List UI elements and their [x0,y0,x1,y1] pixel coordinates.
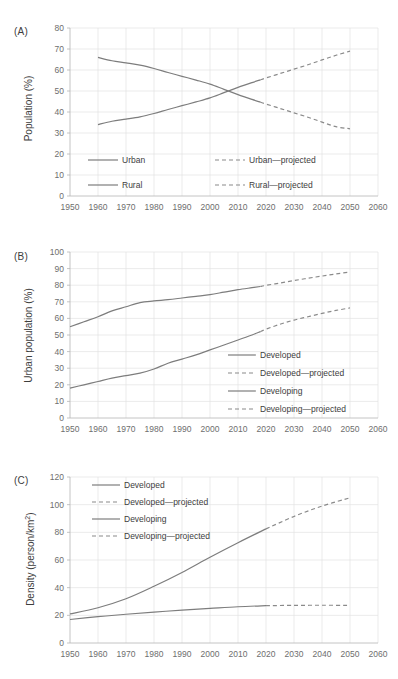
y-tick-label: 30 [55,363,65,373]
y-tick-label: 50 [55,330,65,340]
y-tick-label: 0 [59,191,64,201]
x-tick-label: 2060 [369,202,388,212]
series-line [260,102,350,129]
y-tick-label: 100 [50,500,64,510]
x-tick-label: 2050 [341,649,360,659]
x-tick-label: 1960 [89,202,108,212]
x-tick-label: 2030 [285,202,304,212]
x-tick-label: 2050 [341,424,360,434]
x-tick-label: 1970 [117,424,136,434]
x-tick-label: 2060 [369,649,388,659]
x-tick-label: 2040 [313,649,332,659]
x-tick-label: 2020 [257,649,276,659]
panel-a-svg: 0102030405060708019501960197019801990200… [0,0,398,232]
y-tick-label: 60 [55,313,65,323]
panel-c: (C) Density (person/km2) 020406080100120… [0,455,398,679]
y-tick-label: 70 [55,44,65,54]
x-tick-label: 2020 [257,424,276,434]
y-tick-label: 30 [55,128,65,138]
x-tick-label: 2030 [285,424,304,434]
panel-c-svg: 0204060801001201950196019701980199020002… [0,455,398,679]
x-tick-label: 1990 [173,424,192,434]
x-tick-label: 1950 [61,424,80,434]
y-tick-label: 10 [55,170,65,180]
legend-label: Developing—projected [124,531,210,541]
panel-a: (A) Population (%) 010203040506070801950… [0,0,398,232]
x-tick-label: 1970 [117,649,136,659]
x-tick-label: 1980 [145,202,164,212]
y-tick-label: 40 [55,583,65,593]
y-tick-label: 80 [55,280,65,290]
x-tick-label: 1970 [117,202,136,212]
legend-label: Developed [124,480,165,490]
x-tick-label: 1960 [89,649,108,659]
x-tick-label: 1960 [89,424,108,434]
x-tick-label: 1980 [145,649,164,659]
y-tick-label: 100 [50,247,64,257]
x-tick-label: 2020 [257,202,276,212]
series-line [98,80,260,125]
x-tick-label: 1950 [61,649,80,659]
y-tick-label: 60 [55,65,65,75]
x-tick-label: 2000 [201,649,220,659]
x-tick-label: 1990 [173,649,192,659]
panel-b-svg: 0102030405060708090100195019601970198019… [0,232,398,455]
y-tick-label: 40 [55,347,65,357]
legend-label: Urban—projected [249,155,316,165]
x-tick-label: 2000 [201,424,220,434]
x-tick-label: 2040 [313,424,332,434]
legend-label: Developing [124,514,167,524]
x-tick-label: 1990 [173,202,192,212]
x-tick-label: 1950 [61,202,80,212]
y-tick-label: 80 [55,527,65,537]
legend-label: Urban [122,155,145,165]
panel-b: (B) Urban population (%) 010203040506070… [0,232,398,455]
series-line [266,498,350,529]
y-tick-label: 20 [55,149,65,159]
legend-label: Developed [260,350,301,360]
legend-label: Rural—projected [249,180,313,190]
x-tick-label: 2030 [285,649,304,659]
y-tick-label: 0 [59,413,64,423]
x-tick-label: 2060 [369,424,388,434]
legend-label: Developed—projected [260,368,344,378]
y-tick-label: 120 [50,472,64,482]
series-line [70,529,266,614]
series-line [98,57,260,102]
series-line [70,287,260,327]
x-tick-label: 2010 [229,202,248,212]
x-tick-label: 2000 [201,202,220,212]
y-tick-label: 60 [55,555,65,565]
y-tick-label: 70 [55,297,65,307]
y-tick-label: 20 [55,610,65,620]
panel-c-plot: 0204060801001201950196019701980199020002… [0,455,398,679]
legend-label: Rural [122,180,142,190]
x-tick-label: 2010 [229,649,248,659]
y-tick-label: 20 [55,380,65,390]
series-line [260,51,350,80]
series-line [260,308,350,332]
y-tick-label: 40 [55,107,65,117]
series-line [260,272,350,287]
legend-label: Developing [260,386,303,396]
y-tick-label: 10 [55,396,65,406]
y-tick-label: 50 [55,86,65,96]
y-tick-label: 0 [59,638,64,648]
x-tick-label: 2040 [313,202,332,212]
y-tick-label: 90 [55,264,65,274]
legend-label: Developing—projected [260,404,346,414]
x-tick-label: 2050 [341,202,360,212]
legend-label: Developed—projected [124,497,208,507]
y-tick-label: 80 [55,23,65,33]
series-line [70,332,260,388]
panel-a-plot: 0102030405060708019501960197019801990200… [0,0,398,232]
panel-b-plot: 0102030405060708090100195019601970198019… [0,232,398,455]
x-tick-label: 1980 [145,424,164,434]
x-tick-label: 2010 [229,424,248,434]
